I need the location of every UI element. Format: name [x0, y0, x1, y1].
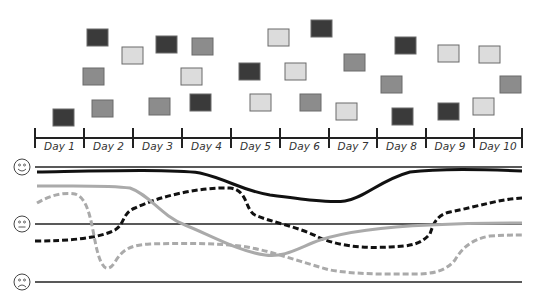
- mood-timeline-diagram: Day 1Day 2Day 3Day 4Day 5Day 6Day 7Day 8…: [0, 0, 536, 301]
- event-box-dark: [392, 108, 413, 125]
- event-box-dark: [395, 37, 416, 54]
- day-label: Day 5: [240, 140, 271, 152]
- day-label: Day 3: [142, 140, 173, 152]
- event-box-light: [438, 45, 459, 62]
- day-label: Day 7: [338, 140, 369, 152]
- day-label: Day 8: [386, 140, 417, 152]
- event-box-light: [250, 94, 271, 111]
- day-label: Day 9: [435, 140, 466, 152]
- mood-lines: [35, 169, 522, 274]
- event-box-light: [479, 46, 500, 63]
- event-box-medium: [344, 54, 365, 71]
- event-box-dark: [438, 103, 459, 120]
- event-box-light: [268, 29, 289, 46]
- event-box-dark: [87, 29, 108, 46]
- day-label: Day 2: [93, 140, 124, 152]
- event-box-medium: [300, 94, 321, 111]
- day-label: Day 6: [289, 140, 320, 152]
- day-axis: Day 1Day 2Day 3Day 4Day 5Day 6Day 7Day 8…: [35, 128, 522, 152]
- event-box-dark: [311, 20, 332, 37]
- event-box-light: [181, 68, 202, 85]
- event-box-dark: [156, 36, 177, 53]
- event-box-medium: [500, 76, 521, 93]
- event-boxes: [53, 20, 521, 126]
- event-box-light: [122, 47, 143, 64]
- event-box-dark: [190, 94, 211, 111]
- neutral-face-icon: [14, 216, 30, 232]
- event-box-dark: [239, 63, 260, 80]
- sad-face-icon: [14, 274, 30, 290]
- event-box-medium: [92, 100, 113, 117]
- event-box-medium: [381, 76, 402, 93]
- event-box-light: [336, 103, 357, 120]
- happy-face-icon: [14, 159, 30, 175]
- day-label: Day 4: [191, 140, 222, 152]
- event-box-medium: [192, 38, 213, 55]
- event-box-medium: [83, 68, 104, 85]
- event-box-dark: [53, 109, 74, 126]
- event-box-light: [285, 63, 306, 80]
- day-label: Day 1: [44, 140, 75, 152]
- event-box-light: [473, 98, 494, 115]
- event-box-medium: [149, 98, 170, 115]
- day-label: Day 10: [479, 140, 517, 152]
